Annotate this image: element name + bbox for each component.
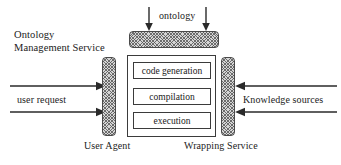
user-request-label: user request <box>17 94 66 106</box>
pipeline-step-compilation: compilation <box>133 88 211 105</box>
ontology-arrow-right-icon <box>199 6 213 32</box>
knowledge-sources-arrow-top-icon <box>233 80 341 92</box>
wrapping-service-label: Wrapping Service <box>184 140 258 152</box>
architecture-diagram: ontology Ontology Management Service use… <box>0 0 341 165</box>
pipeline-step-code-generation: code generation <box>133 62 211 79</box>
wrapping-service-bar <box>221 57 235 136</box>
user-request-arrow-bottom-icon <box>0 106 110 118</box>
ontology-management-service-label: Ontology Management Service <box>14 28 109 54</box>
pipeline-step-code-generation-label: code generation <box>134 66 210 76</box>
ontology-flow-label: ontology <box>159 10 195 22</box>
pipeline-step-execution: execution <box>133 112 211 129</box>
user-agent-bar <box>102 57 116 136</box>
pipeline-step-execution-label: execution <box>134 116 210 126</box>
knowledge-sources-arrow-bottom-icon <box>233 106 341 118</box>
knowledge-sources-label: Knowledge sources <box>243 94 323 106</box>
ontology-arrow-left-icon <box>142 6 156 32</box>
ontology-management-service-bar <box>129 31 219 48</box>
user-agent-label: User Agent <box>84 140 130 152</box>
user-request-arrow-top-icon <box>0 80 110 92</box>
pipeline-step-compilation-label: compilation <box>134 92 210 102</box>
